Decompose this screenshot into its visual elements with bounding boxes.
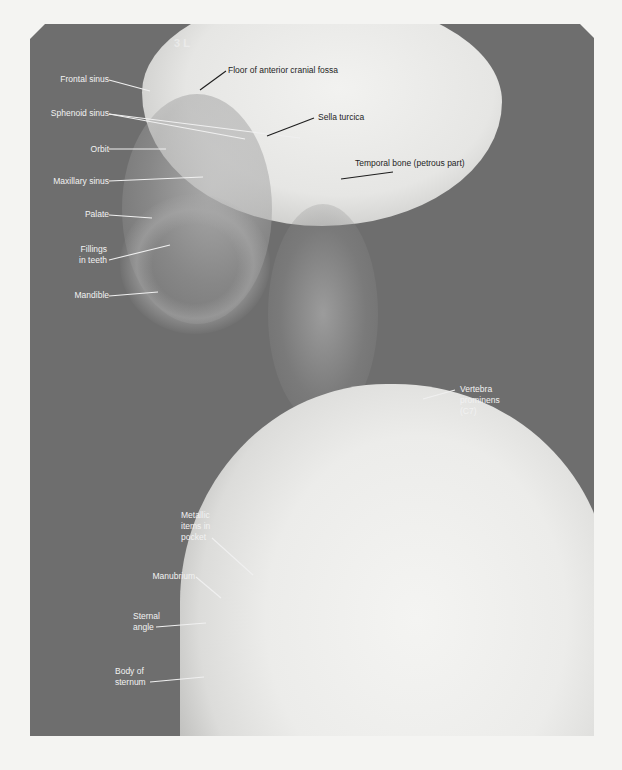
label-line: pocket (181, 532, 210, 543)
label-line: angle (133, 622, 160, 633)
label-line: in teeth (79, 255, 107, 266)
label-line: prominens (460, 395, 500, 406)
label-mandible: Mandible (75, 290, 110, 301)
thorax-region (180, 384, 594, 736)
label-body-of-sternum: Body of sternum (115, 666, 146, 688)
label-floor-anterior-cranial-fossa: Floor of anterior cranial fossa (228, 65, 338, 76)
label-maxillary-sinus: Maxillary sinus (53, 176, 109, 187)
label-line: sternum (115, 677, 146, 688)
label-line: (C7) (460, 406, 500, 417)
label-line: Metallic (181, 510, 210, 521)
label-palate: Palate (85, 209, 109, 220)
label-manubrium: Manubrium (152, 571, 195, 582)
label-metallic-items-in-pocket: Metallic items in pocket (181, 510, 210, 543)
label-sphenoid-sinus: Sphenoid sinus (51, 108, 109, 119)
radiograph-image: 3 L (30, 24, 594, 736)
label-line: Vertebra (460, 384, 500, 395)
label-sternal-angle: Sternal angle (133, 611, 160, 633)
label-fillings-in-teeth: Fillings in teeth (79, 244, 107, 266)
film-marking: 3 L (174, 38, 190, 49)
label-line: items in (181, 521, 210, 532)
label-line: Body of (115, 666, 146, 677)
label-vertebra-prominens: Vertebra prominens (C7) (460, 384, 500, 417)
label-line: Fillings (79, 244, 107, 255)
label-line: Sternal (133, 611, 160, 622)
label-frontal-sinus: Frontal sinus (60, 74, 109, 85)
label-sella-turcica: Sella turcica (318, 112, 364, 123)
mandible-region (120, 194, 270, 334)
label-orbit: Orbit (91, 144, 109, 155)
label-temporal-bone: Temporal bone (petrous part) (355, 158, 465, 169)
